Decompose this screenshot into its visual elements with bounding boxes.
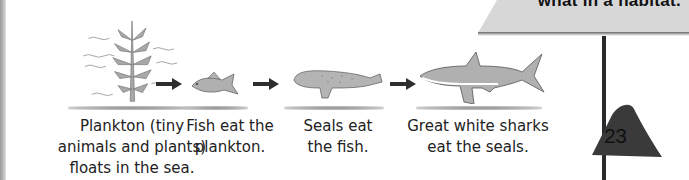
ground-shadow: [416, 106, 542, 110]
page-edge-bar: [0, 0, 6, 180]
ground-shadow: [284, 106, 384, 110]
stage-caption: Seals eat the fish.: [282, 116, 394, 158]
ground-shadow: [184, 106, 248, 110]
food-chain-stage-fish: Fish eat the plankton.: [178, 0, 282, 180]
stage-caption: Great white sharks eat the seals.: [400, 116, 556, 158]
food-chain-stage-shark: Great white sharks eat the seals.: [400, 0, 556, 180]
page-number: 23: [604, 124, 626, 148]
stage-caption: Fish eat the plankton.: [178, 116, 282, 158]
page-number-tab-icon: [590, 103, 664, 159]
header-sign-text: what in a habitat.: [538, 0, 681, 11]
seal-icon: [292, 66, 384, 100]
arrow-right-icon: [253, 78, 279, 90]
fish-icon: [190, 72, 240, 96]
food-chain-stage-seal: Seals eat the fish.: [282, 0, 394, 180]
seaweed-plankton-icon: [72, 14, 192, 110]
shark-icon: [418, 48, 548, 104]
